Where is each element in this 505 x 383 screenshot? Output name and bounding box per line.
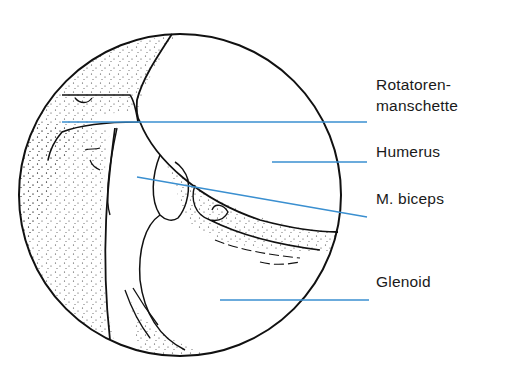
humerus-outline: [137, 34, 338, 232]
biceps-outline-right: [108, 128, 117, 215]
label-humerus: Humerus: [376, 141, 440, 162]
label-glenoid-text: Glenoid: [376, 271, 431, 292]
left-wall-region: [18, 120, 115, 345]
label-biceps: M. biceps: [376, 188, 444, 209]
label-rotatorenmanschette-line1: Rotatoren-: [376, 74, 458, 95]
labrum-region: [165, 160, 338, 252]
label-humerus-text: Humerus: [376, 141, 440, 162]
biceps-outline-left: [105, 128, 115, 340]
label-biceps-text: M. biceps: [376, 188, 444, 209]
label-glenoid: Glenoid: [376, 271, 431, 292]
label-rotatorenmanschette-line2: manschette: [376, 95, 458, 116]
leader-biceps: [137, 177, 367, 217]
label-rotatorenmanschette: Rotatoren- manschette: [376, 74, 458, 116]
